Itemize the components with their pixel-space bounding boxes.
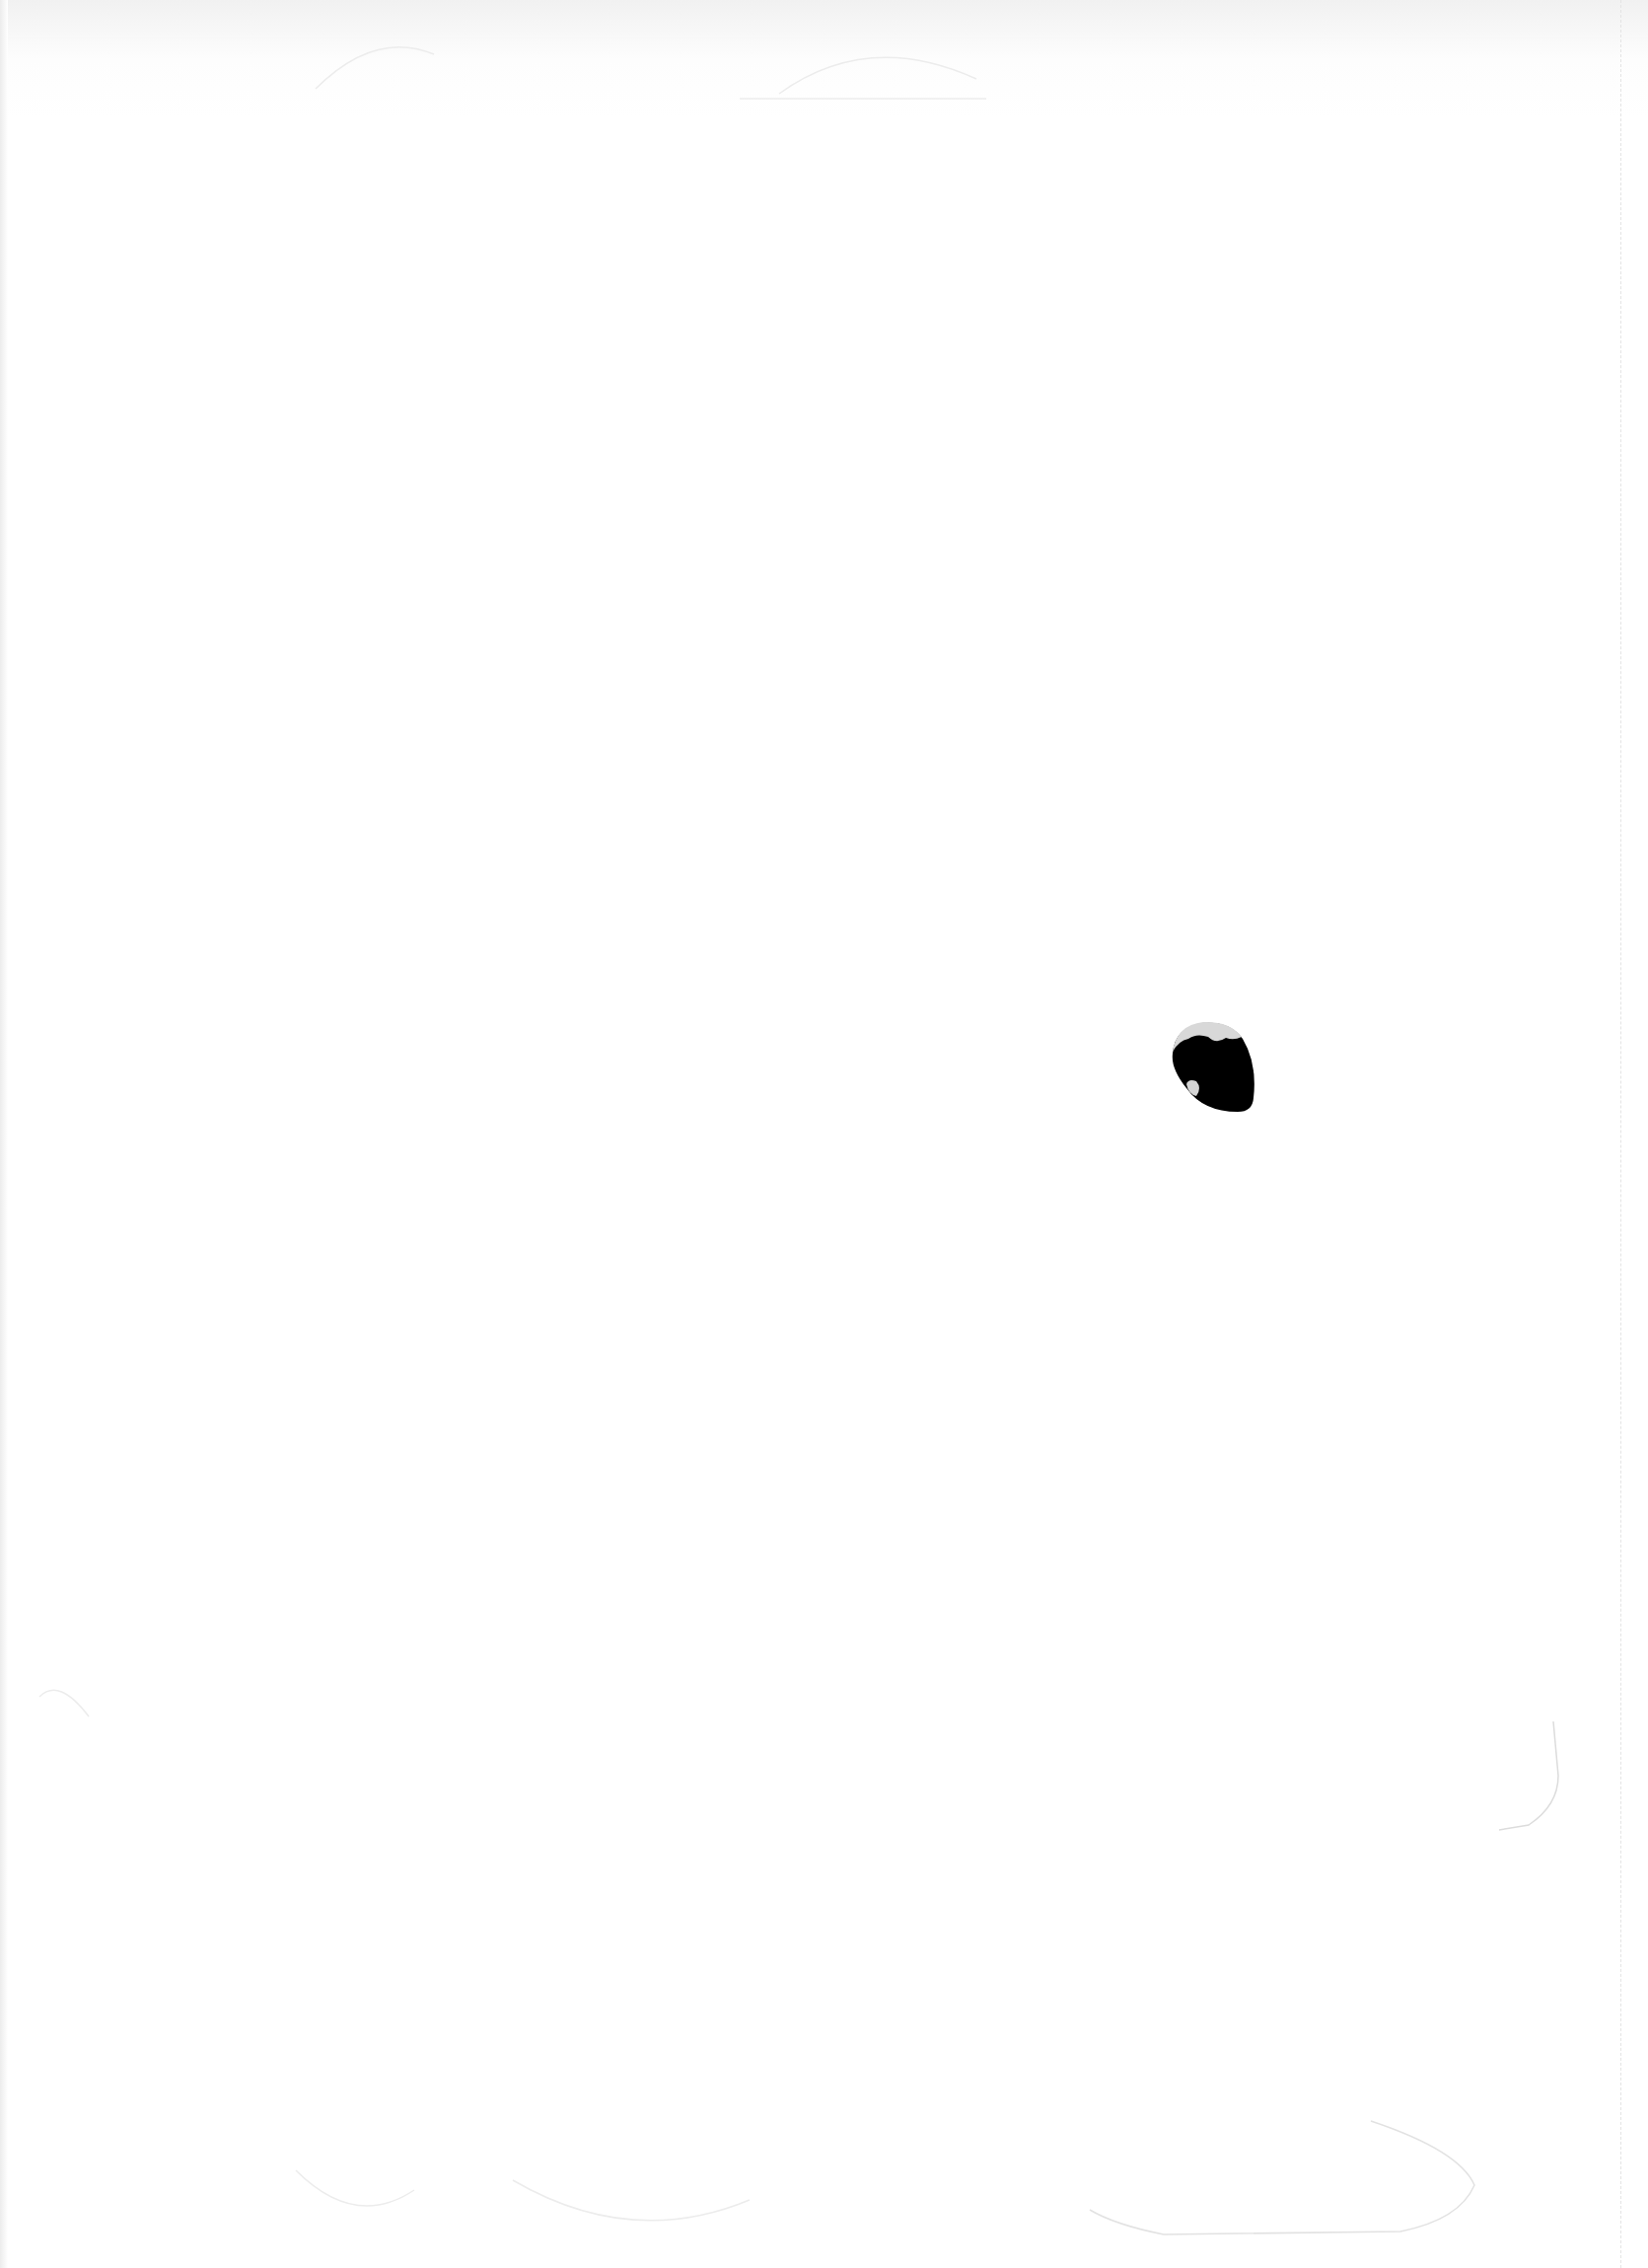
faint-bracket-right xyxy=(1499,1721,1558,1830)
scanned-page xyxy=(0,0,1648,2268)
faint-arc-top-left xyxy=(316,47,434,89)
faint-curve-bottom-right xyxy=(1090,2121,1474,2234)
faint-arc-top-center xyxy=(779,57,976,94)
faint-curve-bottom-left xyxy=(39,1690,89,1717)
faint-bleed-through-sketches xyxy=(0,0,1648,2268)
faint-curve-bottom-center xyxy=(513,2180,750,2221)
ink-blot-icon xyxy=(1169,1019,1257,1114)
faint-curve-bottom xyxy=(296,2170,414,2206)
